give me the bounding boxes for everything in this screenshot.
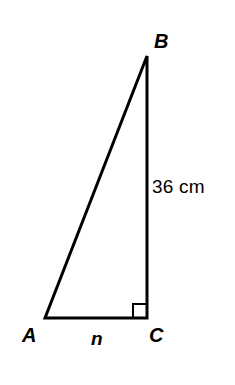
vertex-label-c: C xyxy=(149,325,163,345)
side-length-label-bc: 36 cm xyxy=(152,177,205,196)
geometry-figure: B 36 cm A n C xyxy=(0,0,235,385)
side-length-label-ac: n xyxy=(91,329,103,348)
vertex-label-a: A xyxy=(22,325,36,345)
vertex-label-b: B xyxy=(154,31,168,51)
triangle-outline xyxy=(45,56,147,318)
right-angle-marker-icon xyxy=(133,304,147,318)
